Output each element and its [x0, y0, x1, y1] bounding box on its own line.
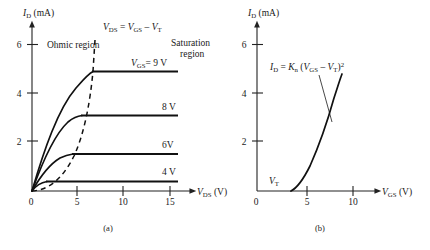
figure-container: 6 4 2 0 5 10 15 ID (mA) VDS (V) Ohmic re…: [0, 0, 430, 250]
panel-a-ytick-label-6: 6: [17, 40, 22, 50]
panel-b-xtick-label-5: 5: [305, 197, 310, 207]
panel-b-caption: (b): [315, 223, 325, 233]
saturation-region-label-line1: Saturation: [171, 38, 210, 48]
svg-text:VDS (V): VDS (V): [197, 187, 227, 198]
mosfet-characteristics-figure: 6 4 2 0 5 10 15 ID (mA) VDS (V) Ohmic re…: [0, 0, 430, 250]
svg-text:VGS (V): VGS (V): [382, 187, 412, 198]
svg-text:VDS = VGS – VT: VDS = VGS – VT: [103, 22, 162, 33]
curve-vgs-6v-label: 6V: [162, 140, 174, 150]
threshold-voltage-label: VT: [269, 176, 280, 187]
panel-b-ytick-label-6: 6: [242, 40, 247, 50]
svg-text:ID (mA): ID (mA): [22, 8, 54, 19]
panel-b-x-axis-subscript: GS: [388, 191, 397, 198]
panel-b: 6 4 2 0 5 10 ID (mA) VGS (V) ID = Kn (VG…: [242, 8, 412, 233]
svg-text:VT: VT: [269, 176, 280, 187]
panel-a-ytick-label-2: 2: [17, 137, 22, 147]
panel-a-x-axis-unit: (V): [212, 187, 228, 198]
curve-vgs-8v-label: 8 V: [162, 102, 176, 112]
panel-a-x-axis-label: VDS (V): [197, 187, 227, 198]
ohmic-region-label: Ohmic region: [47, 40, 100, 50]
panel-b-y-axis-unit: (mA): [256, 8, 279, 19]
saturation-region-label-line2: region: [180, 49, 205, 59]
panel-a-xtick-label-10: 10: [118, 197, 128, 207]
curve-vgs-4v-label: 4 V: [162, 167, 176, 177]
panel-b-xtick-label-0: 0: [254, 197, 259, 207]
svg-text:ID = Kn (VGS – VT)2: ID = Kn (VGS – VT)2: [269, 61, 345, 73]
transfer-equation-leader-line: [319, 75, 332, 122]
transfer-equation-label: ID = Kn (VGS – VT)2: [269, 61, 345, 73]
panel-a-x-axis-subscript: DS: [203, 191, 212, 198]
panel-b-x-axis-label: VGS (V): [382, 187, 412, 198]
curve-vgs-9v-label: VGS= 9 V: [131, 58, 167, 69]
panel-a-xtick-label-0: 0: [29, 197, 34, 207]
panel-a-xtick-label-5: 5: [75, 197, 80, 207]
panel-a-ytick-label-4: 4: [17, 89, 22, 99]
panel-b-ytick-label-4: 4: [242, 89, 247, 99]
panel-a-xtick-label-15: 15: [165, 197, 175, 207]
panel-b-y-axis-label: ID (mA): [247, 8, 279, 19]
curve-transfer-characteristic: [291, 74, 342, 191]
panel-b-ytick-label-2: 2: [242, 137, 247, 147]
panel-a: 6 4 2 0 5 10 15 ID (mA) VDS (V) Ohmic re…: [17, 8, 227, 233]
threshold-voltage-subscript: T: [275, 180, 280, 187]
boundary-equation-label: VDS = VGS – VT: [103, 22, 162, 33]
panel-b-xtick-label-10: 10: [348, 197, 358, 207]
panel-b-x-axis-unit: (V): [397, 187, 413, 198]
svg-text:ID (mA): ID (mA): [247, 8, 279, 19]
panel-a-y-axis-unit: (mA): [31, 8, 54, 19]
panel-a-caption: (a): [103, 223, 113, 233]
panel-a-y-axis-label: ID (mA): [22, 8, 54, 19]
svg-text:VGS= 9 V: VGS= 9 V: [131, 58, 167, 69]
curve-vgs-9v-value: = 9 V: [146, 58, 168, 68]
